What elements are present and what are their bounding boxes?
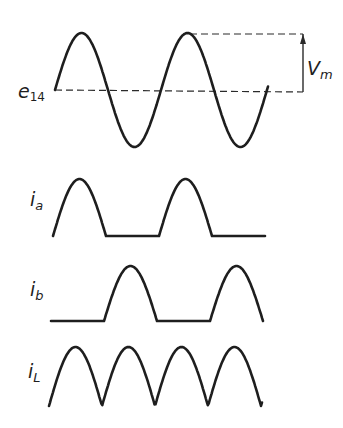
ib-current-waveform <box>51 266 263 321</box>
rectifier-waveform-diagram: e14 Vm ia ib iL <box>0 0 343 428</box>
vm-label: Vm <box>307 57 333 82</box>
e14-sine-wave <box>55 33 268 147</box>
vm-arrow-up-icon <box>300 34 306 44</box>
e14-label: e14 <box>18 80 45 104</box>
iL-load-current-waveform <box>49 347 262 406</box>
ia-label: ia <box>30 188 43 213</box>
ib-label: ib <box>30 278 44 303</box>
ia-current-waveform <box>53 179 265 236</box>
iL-label: iL <box>28 360 41 385</box>
